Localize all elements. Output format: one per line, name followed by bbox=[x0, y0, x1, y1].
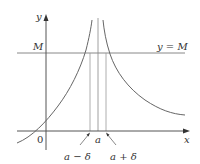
pointer-a-minus-delta-arrow-icon bbox=[87, 133, 91, 137]
a-label: a bbox=[95, 134, 101, 145]
curve-right-branch bbox=[103, 20, 185, 115]
m-label: M bbox=[32, 41, 44, 52]
pointer-a-plus-delta-arrow-icon bbox=[106, 133, 110, 137]
x-axis-arrow-icon bbox=[183, 129, 190, 134]
y-axis-label: y bbox=[35, 11, 42, 22]
a-plus-delta-label: a + δ bbox=[110, 151, 137, 162]
origin-label: 0 bbox=[37, 134, 43, 145]
asymptote-diagram: y M y = M 0 a a − δ a + δ x bbox=[0, 0, 200, 164]
y-equals-m-label: y = M bbox=[156, 41, 188, 52]
a-minus-delta-label: a − δ bbox=[64, 151, 91, 162]
x-axis-label: x bbox=[184, 134, 190, 145]
y-axis-arrow-icon bbox=[44, 14, 49, 21]
curve-left-branch bbox=[17, 20, 92, 143]
